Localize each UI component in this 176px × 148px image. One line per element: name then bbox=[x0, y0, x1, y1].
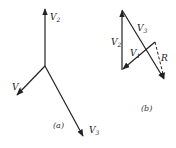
caption-b: (b) bbox=[141, 104, 152, 113]
diagram-b: V2 V3 V1 R (b) bbox=[111, 10, 168, 113]
vector-diagram: V2 V1 V3 (a) V2 V3 V1 R (b) bbox=[0, 0, 176, 148]
label-v3-b: V3 bbox=[137, 23, 148, 34]
label-v3-a: V3 bbox=[89, 125, 100, 136]
label-v1-a: V1 bbox=[12, 82, 22, 93]
vector-v3-b bbox=[122, 10, 164, 79]
diagram-a: V2 V1 V3 (a) bbox=[12, 9, 100, 136]
caption-a: (a) bbox=[53, 121, 64, 130]
label-v1-b: V1 bbox=[130, 48, 140, 59]
label-v2-a: V2 bbox=[50, 12, 61, 23]
label-r: R bbox=[160, 53, 168, 63]
label-v2-b: V2 bbox=[111, 37, 122, 48]
